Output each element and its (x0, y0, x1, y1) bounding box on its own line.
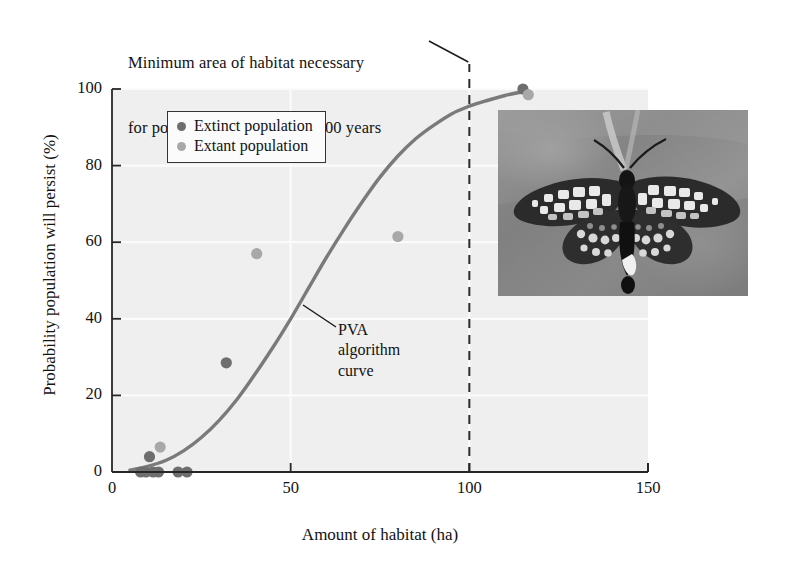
x-axis-ticks: 050100150 (0, 478, 786, 508)
caption-leader-line (429, 41, 468, 62)
data-point-extinct-population[interactable] (221, 357, 232, 368)
data-point-extant-population[interactable] (251, 248, 262, 259)
chart-legend: Extinct populationExtant population (167, 111, 326, 163)
pva-curve-annotation: PVA algorithm curve (338, 320, 400, 381)
legend-label: Extinct population (194, 117, 313, 136)
legend-dot-icon (177, 122, 186, 131)
legend-dot-icon (177, 142, 186, 151)
y-tick-label: 20 (56, 384, 102, 404)
y-tick-label: 60 (56, 231, 102, 251)
y-tick-label: 40 (56, 308, 102, 328)
pva-figure: Minimum area of habitat necessary for po… (0, 0, 786, 567)
pva-annotation-line-2: algorithm (338, 340, 400, 360)
data-point-extant-population[interactable] (155, 442, 166, 453)
x-tick-label: 150 (618, 478, 678, 498)
x-tick-label: 50 (261, 478, 321, 498)
data-point-extant-population[interactable] (523, 89, 534, 100)
legend-item-extant: Extant population (177, 137, 313, 156)
legend-label: Extant population (194, 137, 308, 156)
data-point-extant-population[interactable] (392, 231, 403, 242)
y-tick-label: 100 (56, 78, 102, 98)
x-tick-label: 100 (439, 478, 499, 498)
y-tick-label: 80 (56, 155, 102, 175)
legend-item-extinct: Extinct population (177, 117, 313, 136)
pva-annotation-line-1: PVA (338, 320, 400, 340)
x-tick-label: 0 (82, 478, 142, 498)
x-axis-title: Amount of habitat (ha) (112, 525, 648, 545)
caption-line-1: Minimum area of habitat necessary (128, 52, 381, 74)
data-point-extinct-population[interactable] (144, 451, 155, 462)
pva-annotation-line-3: curve (338, 361, 400, 381)
butterfly-photo (498, 110, 748, 296)
